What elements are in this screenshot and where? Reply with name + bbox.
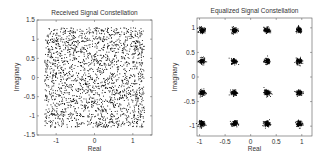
right-axes-box — [197, 18, 312, 136]
y-tick-label: -1 — [29, 112, 35, 119]
right-ylabel: Imaginary — [171, 62, 179, 91]
y-tick-label: 0.5 — [186, 49, 195, 56]
left-title: Received Signal Constellation — [51, 9, 138, 17]
y-tick-label: -0.5 — [184, 98, 196, 105]
x-tick-label: 0 — [93, 137, 97, 144]
x-tick-label: 1 — [300, 138, 304, 145]
y-tick-label: -0.5 — [24, 93, 36, 100]
x-tick-label: -1 — [197, 138, 203, 145]
y-tick-label: 0 — [191, 73, 195, 80]
right-xlabel: Real — [248, 145, 262, 152]
left-axes-box — [37, 20, 152, 135]
y-tick-label: 0 — [31, 74, 35, 81]
y-tick-label: -1 — [189, 122, 195, 129]
y-tick-label: 1 — [31, 35, 35, 42]
x-tick-label: 0.5 — [272, 138, 281, 145]
x-tick-label: 0 — [249, 138, 253, 145]
figure: -101 -1.5-1-0.500.511.5 Received Signal … — [0, 0, 324, 160]
left-xlabel: Real — [88, 145, 102, 152]
y-tick-label: 1 — [191, 24, 195, 31]
x-tick-label: 1 — [131, 137, 135, 144]
x-tick-label: -1 — [53, 137, 59, 144]
x-tick-label: -0.5 — [220, 138, 232, 145]
equalized-constellation-plot: -1-0.500.51 -1-0.500.51 Equalized Signal… — [171, 7, 312, 152]
y-tick-label: -1.5 — [24, 131, 36, 138]
left-ylabel: Imaginary — [13, 62, 21, 91]
received-constellation-plot: -101 -1.5-1-0.500.511.5 Received Signal … — [13, 9, 152, 152]
y-tick-label: 0.5 — [26, 55, 35, 62]
y-tick-label: 1.5 — [26, 16, 35, 23]
right-title: Equalized Signal Constellation — [211, 7, 299, 15]
